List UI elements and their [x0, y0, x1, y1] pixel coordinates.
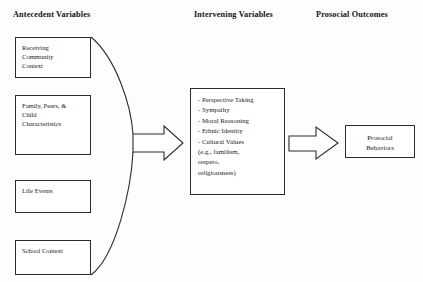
node-school-context[interactable]: School Context — [15, 240, 91, 275]
node-label: - Perspective Taking - Sympathy - Moral … — [198, 95, 281, 178]
node-receiving-community-context[interactable]: Receiving Community Context — [15, 37, 91, 78]
diagram-canvas: Antecedent Variables Intervening Variabl… — [0, 0, 423, 282]
arrow-antecedent-to-intervening — [133, 126, 183, 160]
node-family-peers-child-characteristics[interactable]: Family, Peers, & Child Characteristics — [15, 95, 91, 155]
column-title-antecedent: Antecedent Variables — [13, 10, 90, 19]
column-title-prosocial: Prosocial Outcomes — [316, 10, 388, 19]
node-label: School Context — [22, 246, 87, 255]
node-label: Family, Peers, & Child Characteristics — [22, 101, 87, 129]
node-label: Prosocial Behaviors — [346, 133, 414, 152]
brace-lower-curve — [91, 152, 133, 275]
node-intervening-variables-list[interactable]: - Perspective Taking - Sympathy - Moral … — [190, 88, 285, 195]
node-prosocial-behaviors[interactable]: Prosocial Behaviors — [345, 125, 415, 158]
node-label: Life Events — [22, 186, 87, 195]
arrow-intervening-to-prosocial — [289, 127, 338, 159]
node-life-events[interactable]: Life Events — [15, 180, 91, 213]
brace-upper-curve — [91, 37, 133, 134]
column-title-intervening: Intervening Variables — [194, 10, 273, 19]
node-label: Receiving Community Context — [22, 43, 87, 71]
